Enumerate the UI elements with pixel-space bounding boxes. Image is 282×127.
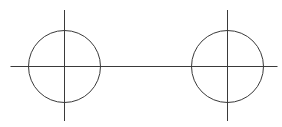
right-crosshair-circle: [192, 10, 264, 121]
diagram-canvas: [0, 0, 282, 127]
left-crosshair-circle: [29, 10, 101, 121]
